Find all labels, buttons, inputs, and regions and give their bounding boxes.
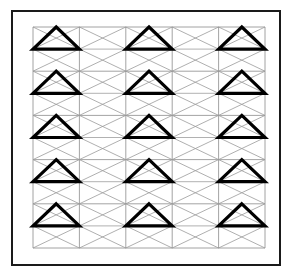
pattern-figure <box>0 0 292 276</box>
figure-container <box>0 0 292 276</box>
